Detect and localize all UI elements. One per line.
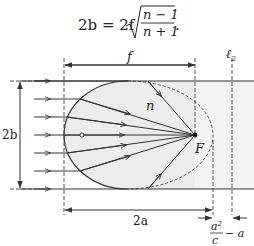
ellipse-center-point [80, 133, 84, 137]
label-frac-tail: − a [225, 227, 244, 240]
label-2b: 2b [2, 128, 18, 142]
label-l2: ℓ2 [226, 47, 236, 63]
label-frac-num: a2 [211, 220, 223, 233]
label-n: n [146, 98, 154, 113]
ellipse-lens-diagram: f ℓ2 2b n F 2a a2 c − a [0, 0, 254, 246]
label-2a: 2a [133, 214, 148, 228]
label-frac-den: c [212, 234, 218, 246]
label-f: f [126, 49, 134, 64]
focus-point [193, 133, 198, 138]
label-F: F [194, 141, 205, 156]
